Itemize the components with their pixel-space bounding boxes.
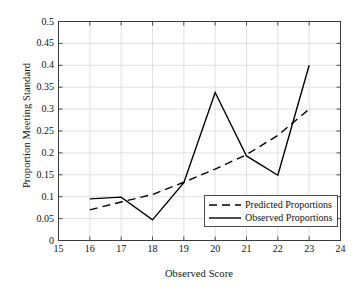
legend-item-observed: Observed Proportions bbox=[208, 211, 333, 224]
legend-label-predicted: Predicted Proportions bbox=[245, 199, 332, 210]
chart-figure: Proportion Meeting Standard Observed Sco… bbox=[0, 0, 359, 288]
legend-swatch-dashed bbox=[208, 200, 242, 210]
legend-item-predicted: Predicted Proportions bbox=[208, 198, 333, 211]
legend-swatch-solid bbox=[208, 213, 242, 223]
plot-area bbox=[0, 0, 359, 288]
chart-legend: Predicted Proportions Observed Proportio… bbox=[204, 195, 338, 227]
legend-label-observed: Observed Proportions bbox=[245, 212, 333, 223]
